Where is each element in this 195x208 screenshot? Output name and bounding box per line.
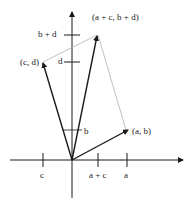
vector-sum <box>72 36 97 160</box>
label-a-plus-c: a + c <box>89 170 107 180</box>
label-point-cd: (c, d) <box>20 57 39 67</box>
label-point-ab: (a, b) <box>132 126 151 136</box>
label-a: a <box>124 170 128 180</box>
label-point-sum: (a + c, b + d) <box>92 12 139 22</box>
vector-cd <box>43 63 72 160</box>
guide-cd-to-sum <box>43 35 97 62</box>
label-d: d <box>58 56 63 66</box>
vector-addition-diagram: (a + c, b + d) b + d d (c, d) b (a, b) c… <box>0 0 195 208</box>
label-b: b <box>84 126 89 136</box>
label-c: c <box>40 170 44 180</box>
vector-ab <box>72 130 128 160</box>
label-b-plus-d: b + d <box>38 29 57 39</box>
guide-ab-to-sum <box>98 35 126 130</box>
